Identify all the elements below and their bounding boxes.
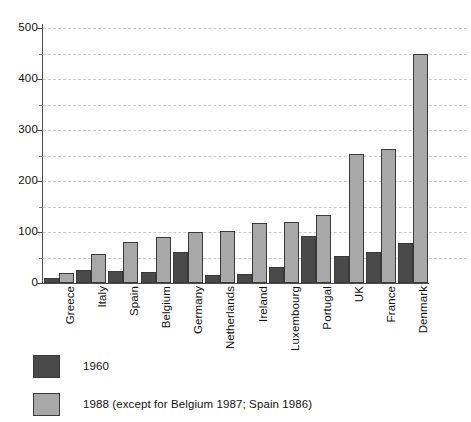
bar-group [333, 1, 365, 283]
x-tick-label: Ireland [257, 286, 269, 322]
y-tick-label: 0 [0, 277, 38, 289]
y-minor-tick-mark [39, 258, 43, 259]
x-tick-label: Greece [64, 286, 76, 324]
y-tick-mark [37, 181, 43, 182]
x-tick-label: UK [353, 286, 365, 302]
y-tick-label: 100 [0, 226, 38, 238]
x-axis-line [43, 283, 429, 284]
bar-group [397, 1, 429, 283]
bar-1960 [76, 270, 91, 283]
bar-group [75, 1, 107, 283]
bar-group [204, 1, 236, 283]
y-tick-label: 400 [0, 73, 38, 85]
y-minor-tick-mark [39, 156, 43, 157]
y-tick-label: 300 [0, 124, 38, 136]
x-tick-label: Denmark [417, 286, 429, 333]
x-tick-label: Germany [192, 286, 204, 334]
bar-group [43, 1, 75, 283]
y-tick-mark [37, 79, 43, 80]
y-minor-tick-mark [39, 105, 43, 106]
y-tick-mark [37, 283, 43, 284]
bar-1988 [349, 154, 364, 283]
bar-1988 [381, 149, 396, 283]
bar-chart: 0100200300400500 GreeceItalySpainBelgium… [0, 0, 471, 422]
bar-1988 [156, 237, 171, 283]
x-tick-label: Spain [128, 286, 140, 316]
x-tick-label: France [385, 286, 397, 322]
bar-1960 [108, 271, 123, 283]
bar-1960 [301, 236, 316, 283]
y-axis: 0100200300400500 [0, 0, 38, 300]
y-minor-tick-mark [39, 54, 43, 55]
bar-1988 [284, 222, 299, 283]
y-tick-mark [37, 28, 43, 29]
bar-group [268, 1, 300, 283]
bar-group [236, 1, 268, 283]
bar-group [172, 1, 204, 283]
legend-item: 1960 [33, 354, 453, 378]
bar-group [365, 1, 397, 283]
y-tick-label: 500 [0, 22, 38, 34]
bar-1988 [123, 242, 138, 283]
plot-area: 0100200300400500 GreeceItalySpainBelgium… [0, 0, 471, 300]
x-tick-label: Belgium [160, 286, 172, 328]
bar-1988 [220, 231, 235, 283]
legend-swatch [33, 355, 60, 378]
y-minor-tick-mark [39, 207, 43, 208]
legend-label: 1960 [83, 360, 109, 372]
bar-1960 [173, 252, 188, 283]
bar-1960 [205, 275, 220, 283]
x-tick-label: Luxembourg [289, 286, 301, 351]
legend-item: 1988 (except for Belgium 1987; Spain 198… [33, 392, 453, 416]
bar-1988 [316, 215, 331, 283]
bar-1988 [91, 254, 106, 283]
x-tick-label: Netherlands [224, 286, 236, 349]
bar-1988 [59, 273, 74, 283]
bar-group [300, 1, 332, 283]
chart-legend: 19601988 (except for Belgium 1987; Spain… [33, 354, 453, 422]
legend-label: 1988 (except for Belgium 1987; Spain 198… [83, 398, 312, 410]
y-tick-label: 200 [0, 175, 38, 187]
bar-1960 [334, 256, 349, 283]
bars-layer [43, 0, 467, 284]
legend-swatch [33, 393, 60, 416]
bar-1960 [366, 252, 381, 283]
x-tick-label: Italy [96, 286, 108, 308]
bar-group [107, 1, 139, 283]
bar-1960 [141, 272, 156, 283]
bar-group [140, 1, 172, 283]
bar-1988 [188, 232, 203, 283]
y-tick-mark [37, 130, 43, 131]
bar-1960 [237, 274, 252, 283]
x-tick-label: Portugal [321, 286, 333, 330]
bar-1960 [398, 243, 413, 283]
bar-1960 [269, 267, 284, 283]
y-tick-mark [37, 232, 43, 233]
bar-1988 [413, 54, 428, 284]
bar-1988 [252, 223, 267, 283]
